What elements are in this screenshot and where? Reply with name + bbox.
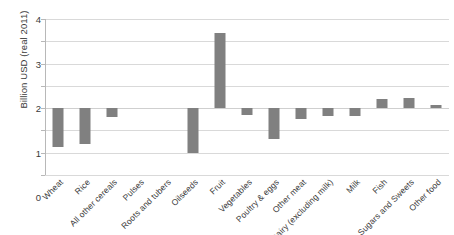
x-axis-category-labels: WheatRiceAll other cerealsPulsesRoots an… xyxy=(45,175,449,235)
x-axis-label: Rice xyxy=(73,177,92,196)
bar[interactable] xyxy=(107,108,118,117)
category-slot: Oilseeds xyxy=(180,175,207,235)
bar-slot xyxy=(368,19,395,175)
x-axis-label: Wheat xyxy=(41,177,66,202)
bar-slot xyxy=(395,19,422,175)
bar-chart: Billion USD (real 2011) 43210-1-2-3 Whea… xyxy=(0,0,454,235)
x-axis-label: Fish xyxy=(370,177,389,196)
bar-slot xyxy=(422,19,449,175)
bar-slot xyxy=(287,19,314,175)
bar[interactable] xyxy=(403,98,414,108)
bar-slot xyxy=(234,19,261,175)
bar-slot xyxy=(260,19,287,175)
bar[interactable] xyxy=(215,33,226,108)
x-axis-label: Fruit xyxy=(208,177,227,196)
y-axis-title: Billion USD (real 2011) xyxy=(18,0,29,135)
bars-layer xyxy=(45,19,449,175)
x-axis-label: Milk xyxy=(344,177,362,195)
category-slot: Wheat xyxy=(45,175,72,235)
bar-slot xyxy=(126,19,153,175)
bar-slot xyxy=(72,19,99,175)
category-slot: Dairy (excluding milk) xyxy=(314,175,341,235)
bar[interactable] xyxy=(430,105,441,108)
bar-slot xyxy=(180,19,207,175)
bar[interactable] xyxy=(295,108,306,119)
bar[interactable] xyxy=(349,108,360,116)
bar[interactable] xyxy=(53,108,64,147)
bar-slot xyxy=(341,19,368,175)
bar-slot xyxy=(207,19,234,175)
category-slot: Other food xyxy=(422,175,449,235)
plot-area: 43210-1-2-3 xyxy=(45,19,449,175)
bar[interactable] xyxy=(322,108,333,116)
bar-slot xyxy=(99,19,126,175)
bar-slot xyxy=(45,19,72,175)
bar[interactable] xyxy=(376,99,387,108)
bar-slot xyxy=(314,19,341,175)
bar[interactable] xyxy=(80,108,91,144)
bar-slot xyxy=(153,19,180,175)
bar[interactable] xyxy=(241,108,252,115)
bar[interactable] xyxy=(268,108,279,139)
bar[interactable] xyxy=(188,108,199,153)
